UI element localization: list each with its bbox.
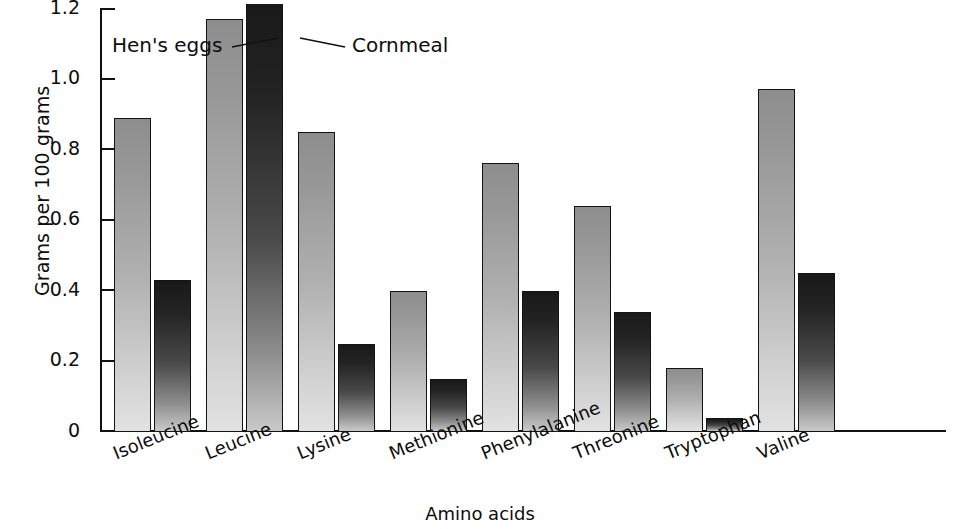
plot-area (102, 8, 946, 432)
bar-group (758, 8, 835, 432)
y-axis-tick-labels: 1.2 1.0 0.8 0.6 0.4 0.2 0 (18, 0, 80, 529)
bar-cornmeal-leucine (246, 4, 283, 432)
bar-group (298, 8, 375, 432)
bar-cornmeal-lysine (338, 344, 375, 432)
y-tick-label: 1.0 (18, 68, 80, 87)
bar-hen-s-eggs-leucine (206, 19, 243, 432)
bar-chart-figure: Grams per 100 grams 1.2 1.0 0.8 0.6 0.4 … (0, 0, 960, 529)
bar-hen-s-eggs-methionine (390, 291, 427, 432)
bar-hen-s-eggs-valine (758, 89, 795, 432)
annotation-hens-eggs: Hen's eggs (112, 33, 222, 57)
bar-group (574, 8, 651, 432)
y-tick-label: 0 (18, 421, 80, 440)
bar-group (390, 8, 467, 432)
bar-group (482, 8, 559, 432)
y-tick-label: 0.2 (18, 350, 80, 369)
bar-hen-s-eggs-isoleucine (114, 118, 151, 432)
bar-group (666, 8, 743, 432)
bar-hen-s-eggs-lysine (298, 132, 335, 432)
bar-cornmeal-isoleucine (154, 280, 191, 432)
bar-cornmeal-phenylalanine (522, 291, 559, 432)
bar-group (206, 8, 283, 432)
bar-group (114, 8, 191, 432)
y-tick-label: 0.8 (18, 139, 80, 158)
x-axis-label: Amino acids (0, 503, 960, 524)
annotation-cornmeal: Cornmeal (352, 33, 448, 57)
y-tick-label: 0.6 (18, 209, 80, 228)
y-tick-label: 1.2 (18, 0, 80, 17)
y-tick-label: 0.4 (18, 280, 80, 299)
bar-hen-s-eggs-tryptophan (666, 368, 703, 432)
bar-hen-s-eggs-phenylalanine (482, 163, 519, 432)
bar-cornmeal-valine (798, 273, 835, 432)
